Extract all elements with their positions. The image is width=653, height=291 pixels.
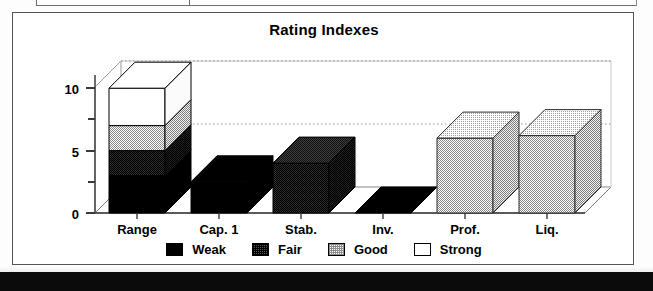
chart-panel: Rating Indexes xyxy=(12,12,634,265)
x-tick-label-range: Range xyxy=(117,222,157,237)
legend-swatch-strong-icon xyxy=(414,243,431,256)
x-axis-labels: Range Cap. 1 Stab. Inv. Prof. Liq. xyxy=(117,222,558,237)
scan-page-edge-bar xyxy=(0,272,653,291)
x-tick-label-cap-1: Cap. 1 xyxy=(199,222,238,237)
legend-item-good[interactable]: Good xyxy=(328,242,388,257)
x-tick-label-prof: Prof. xyxy=(450,222,480,237)
chart-plot-area: 10 5 0 xyxy=(13,13,635,266)
scanned-page: Rating Indexes xyxy=(0,0,653,291)
legend-item-weak[interactable]: Weak xyxy=(166,242,226,257)
bar-prof[interactable] xyxy=(437,112,519,213)
x-tick-label-liq: Liq. xyxy=(535,222,558,237)
legend-item-fair[interactable]: Fair xyxy=(252,242,302,257)
legend-label-weak: Weak xyxy=(192,242,226,257)
bar-chart-svg: 10 5 0 xyxy=(13,13,635,266)
x-axis-ticks xyxy=(137,213,547,219)
legend-label-fair: Fair xyxy=(278,242,302,257)
y-tick-label-10: 10 xyxy=(65,82,79,97)
bar-liq[interactable] xyxy=(519,110,601,213)
y-axis: 10 5 0 xyxy=(65,75,95,222)
scan-table-fragment xyxy=(36,0,190,6)
legend-swatch-fair-icon xyxy=(252,243,269,256)
legend-item-strong[interactable]: Strong xyxy=(414,242,482,257)
legend-swatch-weak-icon xyxy=(166,243,183,256)
legend-label-strong: Strong xyxy=(440,242,482,257)
y-tick-label-0: 0 xyxy=(72,207,79,222)
y-tick-label-5: 5 xyxy=(72,145,79,160)
legend-swatch-good-icon xyxy=(328,243,345,256)
x-tick-label-stab: Stab. xyxy=(285,222,317,237)
chart-legend: Weak Fair Good Strong xyxy=(13,237,635,261)
x-tick-label-inv: Inv. xyxy=(372,222,393,237)
legend-label-good: Good xyxy=(354,242,388,257)
scan-table-fragment-right xyxy=(188,0,637,6)
bar-range[interactable] xyxy=(109,62,191,213)
